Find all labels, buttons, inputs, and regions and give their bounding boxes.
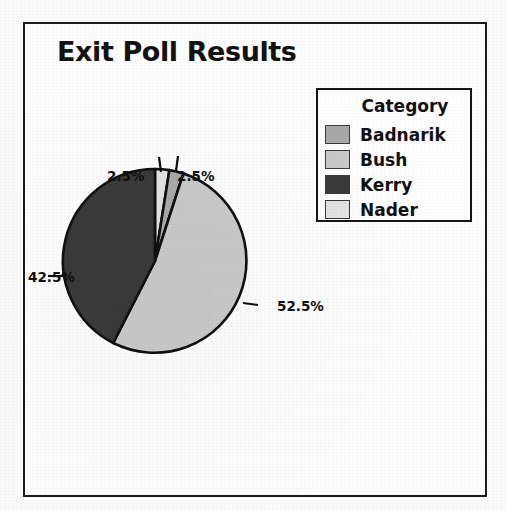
pie-label-bush-percent: 52.5% [277,298,324,314]
pie-label-kerry-percent: 42.5% [28,269,75,285]
legend-title: Category [318,96,474,116]
legend-item-kerry[interactable]: Kerry [325,172,470,197]
legend-item-bush[interactable]: Bush [325,147,470,172]
pie-label-nader-percent: 2.5% [107,168,144,184]
pie-label-badnarik-percent: 2.5% [177,168,214,184]
legend-swatch-badnarik [325,125,350,144]
legend: Category Badnarik Bush Kerry Nader [316,88,472,222]
legend-item-badnarik[interactable]: Badnarik [325,122,470,147]
legend-item-nader[interactable]: Nader [325,197,470,222]
pie-chart: 2.5% 2.5% 52.5% 42.5% [0,0,464,475]
legend-swatch-nader [325,200,350,219]
exit-poll-chart-screenshot: Exit Poll Results [0,0,506,510]
leader-line-bush [243,303,258,305]
pie-svg [0,0,464,475]
legend-swatch-kerry [325,175,350,194]
legend-label-kerry: Kerry [360,175,412,195]
legend-label-bush: Bush [360,150,407,170]
pie-slices [63,169,247,353]
legend-swatch-bush [325,150,350,169]
legend-label-nader: Nader [360,200,418,220]
legend-label-badnarik: Badnarik [360,125,446,145]
